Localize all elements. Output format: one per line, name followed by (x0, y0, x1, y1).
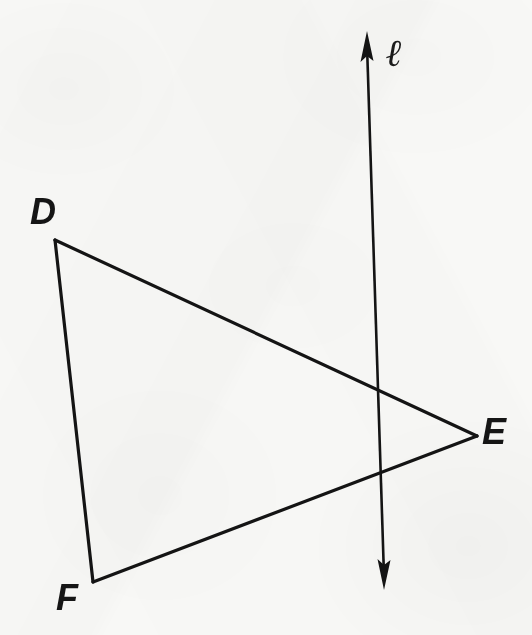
line-l (361, 31, 391, 590)
triangle-def (55, 240, 477, 582)
segment-ef (93, 436, 477, 582)
segment-de (55, 240, 477, 436)
line-l-shaft (367, 45, 384, 576)
diagram-canvas (0, 0, 532, 635)
line-label-l: ℓ (386, 34, 402, 72)
vertex-label-f: F (56, 580, 78, 616)
segment-fd (55, 240, 93, 582)
geometry-figure: D E F ℓ (0, 0, 532, 635)
vertex-label-d: D (30, 194, 56, 230)
vertex-label-e: E (482, 414, 506, 450)
